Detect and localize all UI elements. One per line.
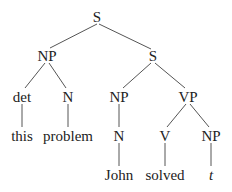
- leaf-john: John: [105, 168, 133, 183]
- leaf-problem: problem: [43, 129, 93, 144]
- leaf-trace: t: [209, 168, 213, 183]
- edge-s-np-john: [123, 63, 151, 88]
- node-n: N: [63, 90, 74, 105]
- node-np-trace: NP: [201, 129, 220, 144]
- node-vp: VP: [178, 90, 197, 105]
- edge-s-vp: [155, 63, 185, 88]
- leaf-this: this: [11, 129, 33, 144]
- edge-vp-np: [190, 104, 209, 127]
- leaf-solved: solved: [145, 168, 184, 183]
- edge-s-np: [50, 24, 97, 48]
- edge-s-s: [99, 24, 151, 49]
- node-np-john: NP: [109, 90, 128, 105]
- edge-np-n: [49, 63, 66, 88]
- node-n-john: N: [114, 129, 125, 144]
- edge-vp-v: [167, 104, 186, 127]
- node-s-root: S: [93, 10, 101, 25]
- node-s-sub: S: [149, 49, 157, 64]
- edge-np-det: [25, 63, 45, 88]
- node-det: det: [13, 90, 31, 105]
- node-v: V: [160, 129, 171, 144]
- node-np: NP: [37, 49, 56, 64]
